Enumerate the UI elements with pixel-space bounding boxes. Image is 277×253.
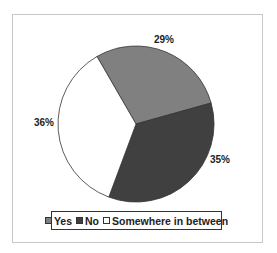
chart-legend: Yes No Somewhere in between bbox=[51, 211, 222, 230]
legend-swatch-between bbox=[103, 217, 110, 224]
data-label-between: 36% bbox=[34, 117, 54, 128]
data-label-yes: 29% bbox=[154, 34, 174, 45]
legend-swatch-yes bbox=[45, 217, 52, 224]
legend-swatch-no bbox=[76, 217, 83, 224]
legend-item-between: Somewhere in between bbox=[103, 215, 228, 227]
legend-label-between: Somewhere in between bbox=[112, 215, 228, 227]
legend-label-yes: Yes bbox=[54, 215, 72, 227]
data-label-no: 35% bbox=[210, 154, 230, 165]
legend-label-no: No bbox=[85, 215, 99, 227]
legend-item-no: No bbox=[76, 215, 99, 227]
legend-item-yes: Yes bbox=[45, 215, 72, 227]
